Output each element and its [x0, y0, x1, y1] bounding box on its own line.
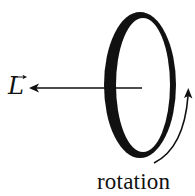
rotation-label: rotation — [97, 170, 170, 194]
angular-momentum-diagram: L rotation — [0, 0, 195, 196]
ring-icon — [104, 12, 176, 158]
diagram-graphics — [0, 0, 195, 196]
vector-label: L — [8, 73, 24, 99]
